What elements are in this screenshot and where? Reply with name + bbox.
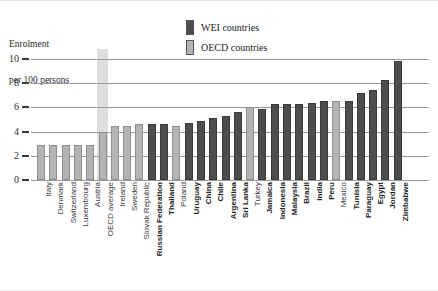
x-label-switzerland: Switzerland — [70, 182, 78, 223]
bar-paraguay — [357, 93, 365, 180]
gridline-0 — [31, 180, 429, 181]
x-label-italy: Italy — [45, 182, 53, 197]
y-tick-label-8: 8 — [5, 77, 19, 88]
bar-oecd-average — [99, 132, 107, 180]
y-tick-label-6: 6 — [5, 101, 19, 112]
bar-denmark — [49, 145, 57, 180]
x-label-austria: Austria — [94, 182, 102, 207]
bar-egypt — [369, 90, 377, 180]
y-axis-title-line1: Enrolment — [9, 38, 69, 50]
y-tick-mark-10 — [22, 58, 29, 60]
x-label-thailand: Thailand — [168, 182, 176, 215]
x-label-paraguay: Paraguay — [365, 182, 373, 218]
bar-mexico — [332, 101, 340, 180]
bar-russian-federation — [148, 124, 156, 180]
y-tick-mark-0 — [22, 179, 29, 181]
y-tick-label-4: 4 — [5, 126, 19, 137]
bar-poland — [172, 126, 180, 180]
gridline-10 — [31, 59, 429, 60]
y-tick-label-0: 0 — [5, 174, 19, 185]
x-label-slovak-republic: Slovak Republic — [143, 182, 151, 239]
chart-figure: Enrolment per 100 persons WEI countriesO… — [0, 0, 438, 291]
x-label-uruguay: Uruguay — [193, 182, 201, 214]
x-label-sri-lanka: Sri Lanka — [242, 182, 250, 218]
bar-italy — [37, 145, 45, 180]
x-label-jordan: Jordan — [389, 182, 397, 209]
y-tick-mark-2 — [22, 155, 29, 157]
x-label-tunisia: Tunisia — [353, 182, 361, 209]
bar-china — [197, 121, 205, 180]
chart-legend: WEI countriesOECD countries — [186, 17, 267, 57]
x-label-poland: Poland — [180, 182, 188, 207]
x-label-zimbabwe: Zimbabwe — [402, 182, 410, 221]
x-label-malaysia: Malaysia — [291, 182, 299, 215]
legend-label-wei: WEI countries — [201, 22, 259, 33]
x-label-mexico: Mexico — [340, 182, 348, 207]
x-label-brazil: Brazil — [303, 182, 311, 204]
y-tick-label-10: 10 — [5, 53, 19, 64]
y-tick-mark-4 — [22, 131, 29, 133]
bar-argentina — [222, 116, 230, 180]
x-label-oecd-average: OECD average — [107, 182, 115, 236]
bar-ireland — [111, 126, 119, 180]
bar-turkey — [246, 107, 254, 180]
bar-thailand — [160, 124, 168, 180]
x-label-egypt: Egypt — [377, 182, 385, 204]
bar-luxembourg — [74, 145, 82, 180]
bar-india — [308, 103, 316, 180]
y-tick-mark-8 — [22, 82, 29, 84]
y-tick-label-2: 2 — [5, 150, 19, 161]
bar-zimbabwe — [394, 61, 402, 180]
x-label-russian-federation: Russian Federation — [156, 182, 164, 256]
bar-jamaica — [258, 109, 266, 180]
x-axis-labels: ItalyDenmarkSwitzerlandLuxembourgAustria… — [31, 182, 429, 290]
bar-slovak-republic — [135, 124, 143, 180]
x-label-indonesia: Indonesia — [279, 182, 287, 219]
bar-sri-lanka — [234, 112, 242, 180]
x-label-denmark: Denmark — [57, 182, 65, 214]
bar-sweden — [123, 126, 131, 180]
x-label-luxembourg: Luxembourg — [82, 182, 90, 226]
bar-switzerland — [62, 145, 70, 180]
bar-jordan — [381, 80, 389, 180]
y-tick-mark-6 — [22, 106, 29, 108]
bar-malaysia — [283, 104, 291, 180]
bar-tunisia — [345, 101, 353, 180]
x-label-chile: Chile — [217, 182, 225, 202]
legend-label-oecd: OECD countries — [201, 42, 267, 53]
x-label-argentina: Argentina — [230, 182, 238, 219]
bar-austria — [86, 145, 94, 180]
x-label-jamaica: Jamaica — [266, 182, 274, 214]
bar-uruguay — [185, 123, 193, 180]
legend-swatch-wei — [186, 20, 194, 35]
gridline-8 — [31, 83, 429, 84]
legend-item-oecd: OECD countries — [186, 37, 267, 57]
plot-area: 0246810 — [31, 59, 429, 180]
bar-chile — [209, 118, 217, 180]
x-label-china: China — [205, 182, 213, 204]
x-label-peru: Peru — [328, 182, 336, 200]
legend-swatch-oecd — [186, 40, 194, 55]
bar-indonesia — [271, 104, 279, 180]
bar-peru — [320, 101, 328, 180]
x-label-india: India — [316, 182, 324, 201]
legend-item-wei: WEI countries — [186, 17, 267, 37]
x-label-turkey: Turkey — [254, 182, 262, 206]
x-label-ireland: Ireland — [119, 182, 127, 206]
bar-brazil — [295, 104, 303, 180]
x-label-sweden: Sweden — [131, 182, 139, 211]
